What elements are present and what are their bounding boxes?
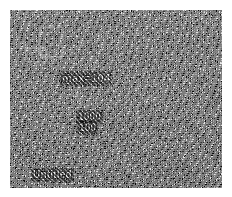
annotation-stack-upper: 1000 [78, 112, 101, 122]
upper-left-box [40, 27, 62, 57]
annotation-corner-label: Untitled [33, 170, 72, 180]
screenshot-root: max=104 1000 100 Untitled [0, 0, 232, 197]
annotation-center-label: max=104 [62, 73, 110, 84]
center-leader [74, 86, 82, 108]
dithered-bitmap-image [10, 10, 222, 188]
vector-overlay [10, 10, 222, 188]
annotation-stack-lower: 100 [79, 123, 96, 133]
